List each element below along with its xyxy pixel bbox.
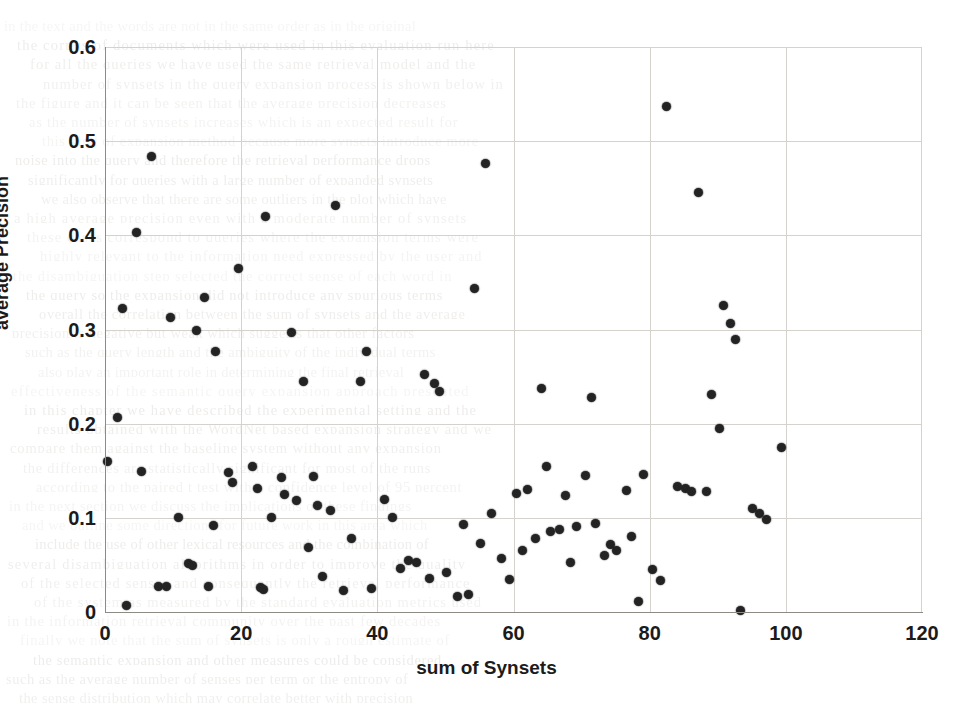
data-point: [304, 543, 313, 552]
data-point: [396, 564, 405, 573]
data-point: [299, 377, 308, 386]
data-point: [694, 188, 703, 197]
data-point: [726, 319, 735, 328]
data-point: [253, 484, 262, 493]
data-point: [762, 515, 771, 524]
data-point: [248, 462, 257, 471]
data-point: [581, 471, 590, 480]
gridline-vertical: [650, 47, 651, 612]
data-point: [331, 201, 340, 210]
data-point: [234, 264, 243, 273]
data-point: [280, 490, 289, 499]
data-point: [442, 568, 451, 577]
data-point: [476, 539, 485, 548]
data-point: [162, 582, 171, 591]
data-point: [622, 486, 631, 495]
data-point: [200, 293, 209, 302]
data-point: [420, 370, 429, 379]
data-point: [347, 534, 356, 543]
x-axis-tick-label: 60: [502, 623, 524, 643]
data-point: [267, 513, 276, 522]
x-axis-line: [105, 612, 923, 613]
data-point: [113, 413, 122, 422]
data-point: [627, 532, 636, 541]
data-point: [228, 478, 237, 487]
y-axis-tick-label: 0.4: [68, 225, 96, 245]
data-point: [309, 472, 318, 481]
data-point: [459, 520, 468, 529]
data-point: [313, 501, 322, 510]
data-point: [715, 424, 724, 433]
data-point: [707, 390, 716, 399]
data-point: [224, 468, 233, 477]
x-axis-tick-label: 0: [99, 623, 110, 643]
data-point: [656, 576, 665, 585]
data-point: [662, 102, 671, 111]
data-point: [362, 347, 371, 356]
data-point: [326, 506, 335, 515]
data-point: [531, 534, 540, 543]
data-point: [453, 592, 462, 601]
data-point: [204, 582, 213, 591]
x-axis-tick-label: 80: [639, 623, 661, 643]
data-point: [546, 527, 555, 536]
x-axis-tick-label: 20: [230, 623, 252, 643]
data-point: [687, 487, 696, 496]
data-point: [464, 590, 473, 599]
data-point: [435, 387, 444, 396]
y-axis-line: [105, 47, 106, 613]
data-point: [634, 597, 643, 606]
data-point: [261, 212, 270, 221]
data-point: [487, 509, 496, 518]
data-point: [412, 558, 421, 567]
data-point: [388, 513, 397, 522]
data-point: [356, 377, 365, 386]
x-axis-title: sum of Synsets: [0, 657, 973, 679]
gridline-vertical: [377, 47, 378, 612]
y-axis-tick-labels: 00.10.20.30.40.50.6: [40, 0, 96, 710]
plot-area: [105, 47, 922, 612]
data-point: [339, 586, 348, 595]
data-point: [192, 326, 201, 335]
data-point: [132, 228, 141, 237]
data-point: [292, 496, 301, 505]
data-point: [702, 487, 711, 496]
data-point: [505, 575, 514, 584]
scatter-chart-figure: 00.10.20.30.40.50.6 average Precision su…: [0, 0, 973, 710]
y-axis-tick-label: 0.2: [68, 414, 96, 434]
data-point: [174, 513, 183, 522]
data-point: [523, 485, 532, 494]
data-point: [566, 558, 575, 567]
data-point: [425, 574, 434, 583]
data-point: [777, 443, 786, 452]
data-point: [470, 284, 479, 293]
data-point: [122, 601, 131, 610]
data-point: [287, 328, 296, 337]
data-point: [719, 301, 728, 310]
data-point: [118, 304, 127, 313]
data-point: [572, 522, 581, 531]
gridline-vertical: [921, 47, 922, 612]
data-point: [537, 384, 546, 393]
data-point: [367, 584, 376, 593]
data-point: [542, 462, 551, 471]
y-axis-tick-label: 0.6: [68, 37, 96, 57]
data-point: [587, 393, 596, 402]
data-point: [277, 473, 286, 482]
data-point: [166, 313, 175, 322]
data-point: [555, 525, 564, 534]
data-point: [612, 546, 621, 555]
data-point: [481, 159, 490, 168]
data-point: [512, 489, 521, 498]
gridline-vertical: [514, 47, 515, 612]
data-point: [497, 554, 506, 563]
data-point: [154, 582, 163, 591]
x-axis-tick-label: 100: [769, 623, 802, 643]
data-point: [639, 470, 648, 479]
data-point: [188, 561, 197, 570]
data-point: [561, 491, 570, 500]
gridline-vertical: [786, 47, 787, 612]
data-point: [600, 551, 609, 560]
x-axis-tick-label: 120: [905, 623, 938, 643]
data-point: [591, 519, 600, 528]
